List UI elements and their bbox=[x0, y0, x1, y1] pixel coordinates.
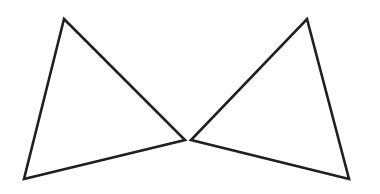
triangles-diagram bbox=[0, 0, 380, 194]
figure-container bbox=[0, 0, 380, 194]
figure-background bbox=[0, 0, 380, 194]
